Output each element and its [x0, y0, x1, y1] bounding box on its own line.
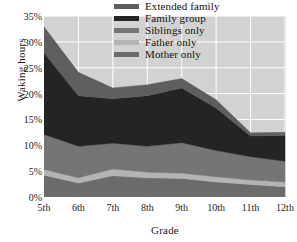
legend-item[interactable]: Siblings only [114, 25, 220, 36]
x-tick-label: 12th [265, 202, 297, 213]
y-tick-label: 10% [2, 140, 42, 151]
legend-label: Family group [145, 13, 206, 24]
x-axis-tick-labels: 5th6th7th8th9th10th11th12th [0, 202, 297, 222]
y-tick-label: 5% [2, 166, 42, 177]
legend-swatch [114, 52, 139, 57]
legend-swatch [114, 40, 139, 45]
legend-swatch [114, 4, 139, 9]
x-axis-title: Grade [44, 224, 286, 236]
legend-swatch [114, 16, 139, 21]
legend-swatch [114, 28, 139, 33]
legend-label: Mother only [145, 49, 201, 60]
legend-label: Father only [145, 37, 197, 48]
legend-label: Extended family [145, 1, 220, 12]
y-tick-label: 15% [2, 114, 42, 125]
y-tick-label: 25% [2, 62, 42, 73]
chart-legend: Extended familyFamily groupSiblings only… [114, 1, 220, 60]
y-tick-label: 35% [2, 11, 42, 22]
y-tick-label: 20% [2, 88, 42, 99]
legend-label: Siblings only [145, 25, 205, 36]
legend-item[interactable]: Mother only [114, 49, 220, 60]
stacked-area-chart-figure: Waking hours Grade 0%5%10%15%20%25%30%35… [0, 0, 297, 242]
y-tick-label: 0% [2, 192, 42, 203]
legend-item[interactable]: Father only [114, 37, 220, 48]
y-tick-label: 30% [2, 36, 42, 47]
legend-item[interactable]: Extended family [114, 1, 220, 12]
legend-item[interactable]: Family group [114, 13, 220, 24]
